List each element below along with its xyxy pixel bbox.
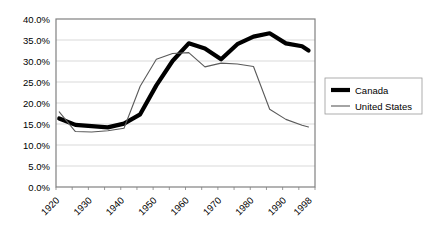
line-chart: 0.0%5.0%10.0%15.0%20.0%25.0%30.0%35.0%40…: [0, 0, 428, 241]
chart-legend: CanadaUnited States: [325, 78, 422, 114]
gridlines-group: [56, 40, 315, 166]
y-axis-tick-label: 15.0%: [23, 119, 50, 130]
x-axis-tick-label: 1920: [39, 195, 62, 218]
x-axis-tick-label: 1940: [103, 195, 126, 218]
x-axis-tick-label: 1930: [71, 195, 94, 218]
chart-container: 0.0%5.0%10.0%15.0%20.0%25.0%30.0%35.0%40…: [0, 0, 428, 241]
y-axis-tick-label: 30.0%: [23, 56, 50, 67]
y-axis-tick-label: 20.0%: [23, 98, 50, 109]
x-axis-tick-label: 1950: [136, 195, 159, 218]
series-line-united-states: [59, 53, 308, 132]
data-series-group: [59, 33, 308, 132]
y-axis-tick-label: 5.0%: [28, 161, 50, 172]
x-axis-tick-label: 1990: [265, 195, 288, 218]
y-axis-tick-labels: 0.0%5.0%10.0%15.0%20.0%25.0%30.0%35.0%40…: [23, 14, 50, 193]
x-axis-tick-label: 1970: [201, 195, 224, 218]
legend-label-canada: Canada: [355, 85, 389, 96]
x-axis-tick-label: 1998: [291, 195, 314, 218]
y-axis-tick-label: 10.0%: [23, 140, 50, 151]
series-line-canada: [59, 33, 308, 127]
y-axis-tick-label: 0.0%: [28, 182, 50, 193]
x-axis-tick-label: 1960: [168, 195, 191, 218]
x-axis-tick-label: 1980: [233, 195, 256, 218]
y-axis-tick-label: 40.0%: [23, 14, 50, 25]
x-axis-tick-labels: 192019301940195019601970198019901998: [39, 195, 314, 218]
y-axis-tick-label: 35.0%: [23, 35, 50, 46]
y-axis-tick-label: 25.0%: [23, 77, 50, 88]
legend-label-united-states: United States: [355, 101, 412, 112]
